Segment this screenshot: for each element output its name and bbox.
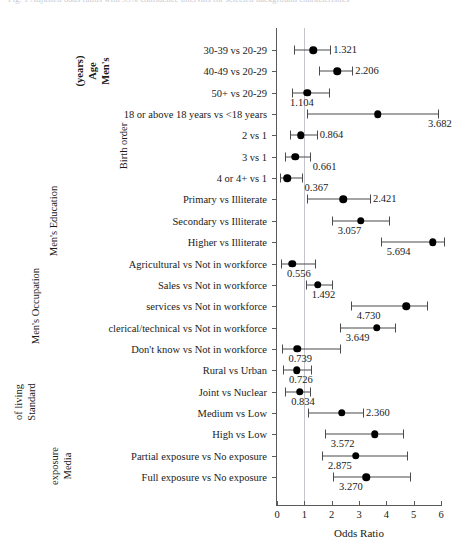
ci-cap-lower: [290, 131, 291, 140]
ci-cap-upper: [403, 430, 404, 439]
point-estimate-marker: [296, 388, 304, 396]
point-estimate-value: 1.104: [290, 97, 314, 108]
y-tick-mark: [272, 221, 276, 222]
x-tick-label: 2: [320, 509, 344, 520]
ci-cap-upper: [352, 67, 353, 76]
point-estimate-marker: [291, 153, 299, 161]
point-estimate-marker: [288, 260, 296, 268]
row-label: Full exposure vs No exposure: [0, 472, 267, 483]
confidence-interval-bar: [307, 114, 438, 115]
confidence-interval-bar: [325, 434, 403, 435]
point-estimate-value: 4.730: [357, 310, 381, 321]
y-axis-line: [276, 28, 277, 505]
point-estimate-marker: [371, 431, 379, 439]
ci-cap-upper: [370, 195, 371, 204]
y-tick-mark: [272, 71, 276, 72]
y-tick-mark: [272, 413, 276, 414]
confidence-interval-bar: [281, 263, 315, 264]
y-tick-mark: [272, 93, 276, 94]
confidence-interval-bar: [333, 477, 410, 478]
confidence-interval-bar: [308, 412, 363, 413]
y-tick-mark: [272, 434, 276, 435]
point-estimate-marker: [352, 452, 360, 460]
point-estimate-value: 0.739: [288, 353, 312, 364]
y-tick-mark: [272, 349, 276, 350]
y-tick-mark: [272, 135, 276, 136]
point-estimate-marker: [363, 473, 371, 481]
point-estimate-value: 1.321: [333, 44, 357, 55]
point-estimate-value: 3.270: [339, 481, 363, 492]
point-estimate-marker: [339, 196, 347, 204]
y-tick-mark: [272, 199, 276, 200]
point-estimate-value: 0.726: [289, 374, 313, 385]
y-tick-mark: [272, 50, 276, 51]
y-tick-mark: [272, 477, 276, 478]
x-tick-label: 4: [374, 509, 398, 520]
ci-cap-upper: [444, 238, 445, 247]
ci-cap-upper: [363, 408, 364, 417]
ci-cap-lower: [280, 174, 281, 183]
y-tick-mark: [272, 392, 276, 393]
point-estimate-marker: [303, 89, 311, 97]
y-tick-mark: [272, 306, 276, 307]
ci-cap-lower: [306, 280, 307, 289]
ci-cap-lower: [332, 216, 333, 225]
ci-cap-lower: [322, 451, 323, 460]
point-estimate-marker: [373, 324, 381, 332]
forest-plot-figure: Fig. 1 Adjusted odds ratios with 95% con…: [0, 0, 468, 556]
plot-panel: 0123456Odds Ratio30-39 vs 20-291.32140-4…: [0, 0, 468, 556]
point-estimate-marker: [314, 281, 322, 289]
confidence-interval-bar: [340, 327, 395, 328]
x-tick-mark: [277, 501, 278, 505]
row-label: Don't know vs Not in workforce: [0, 343, 267, 354]
group-label: Men's: [100, 58, 112, 85]
point-estimate-value: 1.492: [312, 289, 336, 300]
ci-cap-lower: [319, 67, 320, 76]
ci-cap-lower: [340, 323, 341, 332]
row-label: 3 vs 1: [0, 151, 267, 162]
point-estimate-value: 5.694: [387, 246, 411, 257]
point-estimate-marker: [374, 110, 382, 118]
row-label: 50+ vs 20-29: [0, 87, 267, 98]
point-estimate-value: 0.367: [305, 182, 329, 193]
row-label: 4 or 4+ vs 1: [0, 173, 267, 184]
ci-cap-upper: [329, 88, 330, 97]
x-axis-title: Odds Ratio: [334, 527, 384, 539]
ci-cap-lower: [285, 152, 286, 161]
ci-cap-upper: [310, 152, 311, 161]
y-tick-mark: [272, 242, 276, 243]
point-estimate-marker: [283, 174, 291, 182]
ci-cap-upper: [407, 451, 408, 460]
point-estimate-value: 0.556: [287, 268, 311, 279]
ci-cap-lower: [351, 302, 352, 311]
point-estimate-value: 2.421: [373, 193, 397, 204]
ci-cap-upper: [317, 131, 318, 140]
group-label: (years): [74, 56, 86, 87]
point-estimate-value: 0.864: [320, 129, 344, 140]
confidence-interval-bar: [282, 348, 339, 349]
point-estimate-value: 3.057: [338, 225, 362, 236]
x-tick-mark: [359, 501, 360, 505]
group-label: Men's Education: [48, 186, 60, 256]
group-label: of living: [13, 384, 25, 420]
row-label: Rural vs Urban: [0, 365, 267, 376]
y-tick-mark: [272, 370, 276, 371]
y-tick-mark: [272, 157, 276, 158]
point-estimate-marker: [293, 345, 301, 353]
point-estimate-marker: [334, 68, 342, 76]
y-tick-mark: [272, 285, 276, 286]
group-label: Age: [87, 63, 99, 81]
point-estimate-value: 2.360: [366, 407, 390, 418]
group-label: exposure: [49, 447, 61, 485]
row-label: 18 or above 18 years vs <18 years: [0, 109, 267, 120]
ci-cap-lower: [294, 46, 295, 55]
x-tick-mark: [386, 501, 387, 505]
y-tick-mark: [272, 456, 276, 457]
point-estimate-marker: [403, 302, 411, 310]
point-estimate-marker: [293, 367, 301, 375]
ci-cap-upper: [330, 46, 331, 55]
x-tick-label: 1: [292, 509, 316, 520]
row-label: Primary vs Illiterate: [0, 194, 267, 205]
ci-cap-lower: [281, 259, 282, 268]
x-tick-label: 3: [347, 509, 371, 520]
